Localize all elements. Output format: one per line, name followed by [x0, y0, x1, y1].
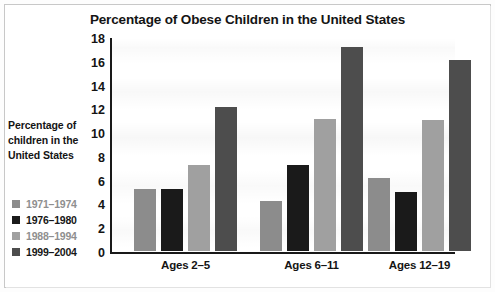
y-axis-label-line-1: Percentage of: [8, 118, 102, 133]
y-axis-tick-label: 12: [91, 104, 105, 117]
legend-item[interactable]: 1988–1994: [12, 228, 107, 244]
y-axis-label-line-3: United States: [8, 148, 102, 163]
legend-label: 1971–1974: [26, 198, 77, 210]
bar: [287, 165, 309, 251]
bar: [134, 189, 156, 251]
y-axis-tick-label: 14: [91, 80, 105, 93]
bar: [161, 189, 183, 251]
y-axis-label-line-2: children in the: [8, 133, 102, 148]
legend-item[interactable]: 1999–2004: [12, 244, 107, 260]
x-axis-group-label: Ages 6–11: [284, 259, 338, 271]
y-axis-tick-label: 8: [98, 152, 105, 165]
chart-title: Percentage of Obese Children in the Unit…: [0, 12, 495, 27]
legend-label: 1999–2004: [26, 246, 77, 258]
x-axis-line: [110, 252, 455, 254]
plot-area: 181614121086420 Ages 2–5Ages 6–11Ages 12…: [110, 38, 455, 253]
bar: [314, 119, 336, 251]
y-axis-tick-label: 16: [91, 57, 105, 70]
y-axis-line: [110, 38, 112, 254]
bar: [368, 178, 390, 251]
legend-swatch-icon: [12, 232, 20, 240]
chart-legend: 1971–19741976–19801988–19941999–2004: [12, 196, 107, 260]
figure: Percentage of Obese Children in the Unit…: [0, 0, 495, 292]
y-axis-tick-label: 6: [98, 175, 105, 188]
legend-swatch-icon: [12, 248, 20, 256]
y-axis-label: Percentage of children in the United Sta…: [8, 118, 102, 163]
bar: [215, 107, 237, 251]
y-axis-tick-label: 18: [91, 33, 105, 46]
legend-swatch-icon: [12, 200, 20, 208]
y-axis-tick-label: 2: [98, 223, 105, 236]
bar: [449, 60, 471, 251]
y-axis-tick-label: 10: [91, 128, 105, 141]
bar: [395, 192, 417, 251]
bar: [188, 165, 210, 251]
legend-label: 1988–1994: [26, 230, 77, 242]
legend-item[interactable]: 1976–1980: [12, 212, 107, 228]
bar: [422, 120, 444, 251]
bar: [341, 47, 363, 251]
y-axis-tick-label: 4: [98, 199, 105, 212]
legend-swatch-icon: [12, 216, 20, 224]
legend-item[interactable]: 1971–1974: [12, 196, 107, 212]
y-axis-tick-label: 0: [98, 247, 105, 260]
x-axis-group-label: Ages 2–5: [161, 259, 210, 271]
x-axis-group-label: Ages 12–19: [389, 259, 450, 271]
bar: [260, 201, 282, 251]
legend-label: 1976–1980: [26, 214, 77, 226]
